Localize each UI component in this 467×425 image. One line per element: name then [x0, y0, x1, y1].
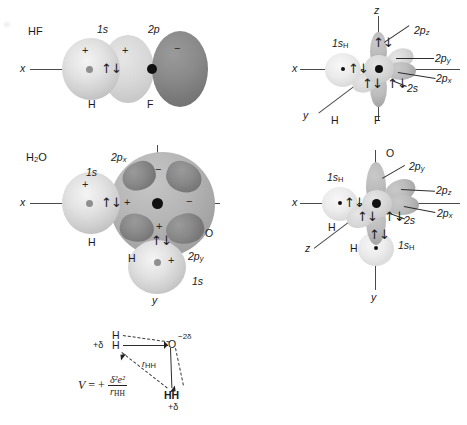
axis-label-y: y	[152, 295, 157, 306]
axis-label-y: y	[371, 292, 376, 303]
orbital-subscript: H	[343, 41, 348, 50]
molecule-label-hf: HF	[28, 26, 43, 37]
orbital-text: 1s	[327, 171, 338, 183]
molecule-text-2: O	[38, 151, 47, 163]
orbital-text: 1s	[332, 37, 343, 49]
axis-label-z: z	[374, 5, 379, 16]
axis-label-z: z	[305, 243, 310, 254]
orbital-subscript: x	[123, 155, 127, 164]
atom-label-h-x: H	[88, 237, 96, 248]
axis-label-x: x	[292, 63, 297, 74]
distance-subscript: HH	[145, 361, 156, 370]
atom-label-h-x: H	[328, 222, 336, 233]
orbital-text: 2p	[188, 250, 200, 262]
equation-equals-plus: = +	[88, 378, 105, 392]
leader-line-2py	[396, 58, 434, 59]
dashed-line-o-to-lower-h	[175, 348, 184, 385]
orbital-label-1s-hx: 1s	[86, 167, 97, 178]
atom-label-h: H	[88, 99, 96, 110]
atom-label-f: F	[374, 115, 380, 126]
orbital-label-2px: 2px	[437, 208, 452, 220]
orbital-label-2py: 2py	[188, 251, 203, 263]
bond-line-o-hh	[170, 348, 172, 388]
denominator-subscript: HH	[114, 389, 125, 398]
axis-label-x: x	[20, 197, 25, 208]
scan-artifact	[4, 22, 10, 27]
phase-sign-hy-plus: +	[168, 255, 174, 266]
atom-label-o: O	[205, 228, 213, 239]
phase-sign-h-plus: +	[82, 45, 88, 56]
fluorine-nucleus	[375, 65, 383, 73]
orbital-subscript: x	[449, 211, 453, 220]
oxygen-nucleus	[372, 199, 381, 208]
bond-line-h-o	[123, 345, 168, 346]
potential-energy-equation: V = + δ²e² rHH	[78, 374, 127, 398]
atom-label-h: H	[331, 115, 339, 126]
orbital-label-1s-hx: 1sH	[327, 172, 344, 184]
atom-label-o: O	[386, 148, 394, 159]
equation-v-symbol: V	[78, 378, 85, 392]
atom-label-h-y: H	[128, 253, 136, 264]
electron-pair-arrows-2py: ↑↓	[362, 77, 382, 90]
axis-label-y: y	[303, 110, 308, 121]
oxygen-label: O	[168, 339, 176, 350]
orbital-text: 2p	[409, 160, 421, 172]
phase-sign-f-back-plus: +	[122, 45, 128, 56]
orbital-subscript: y	[200, 254, 204, 263]
molecule-label-h2o: H2O	[26, 152, 47, 164]
dashed-line-rhh	[121, 352, 167, 388]
electron-pair-arrows: ↑↓	[101, 62, 121, 75]
orbital-label-2pz: 2pz	[414, 25, 429, 37]
orbital-text: 2p	[111, 151, 123, 163]
orbital-label-2s: 2s	[407, 83, 418, 94]
orbital-subscript: x	[448, 76, 452, 85]
orbital-subscript: H	[338, 175, 343, 184]
orbital-overlap-figure: ↑↓ HF 1s 2p H F x + + − ↑↓ ↑↓ ↑↓ ↑↓	[0, 0, 467, 425]
distance-label-rhh: rHH	[142, 360, 156, 370]
orbital-label-1s-hy: 1sH	[398, 240, 415, 252]
orbital-label-1s: 1s	[97, 24, 108, 35]
orbital-text: 2p	[435, 52, 447, 64]
orbital-label-2pz: 2pz	[436, 185, 451, 197]
orbital-subscript: y	[447, 56, 451, 65]
orbital-label-2py: 2py	[409, 161, 424, 173]
hydrogen-y-nucleus	[154, 259, 161, 266]
phase-sign-2px-minus-top: −	[155, 164, 161, 175]
axis-label-x: x	[292, 197, 297, 208]
hydrogen-x-nucleus	[338, 201, 342, 205]
atom-label-h-y: H	[350, 243, 358, 254]
orbital-label-2s: 2s	[404, 215, 415, 226]
phase-sign-f-front-minus: −	[174, 43, 180, 54]
phase-sign-2px-minus-right: −	[186, 196, 192, 207]
atom-label-f: F	[147, 99, 153, 110]
electron-pair-arrows-x-bond: ↑↓	[344, 196, 364, 209]
hydrogen-x-nucleus	[86, 200, 93, 207]
orbital-label-1s-hy: 1s	[192, 276, 203, 287]
charge-label-delta-minus2: −2δ	[178, 333, 192, 341]
charge-label-delta-plus-lower: +δ	[168, 403, 178, 412]
phase-sign-2py-plus: +	[156, 221, 162, 232]
axis-label-x: x	[20, 63, 25, 74]
fluorine-nucleus	[147, 64, 157, 74]
orbital-subscript: z	[426, 28, 430, 37]
charge-label-delta-plus-upper: +δ	[93, 341, 103, 350]
molecule-text: H	[26, 151, 34, 163]
electron-pair-arrows-x-bond: ↑↓	[101, 196, 121, 209]
orbital-subscript: y	[421, 164, 425, 173]
hydrogen-y-nucleus	[374, 246, 378, 250]
leader-line-2py	[382, 165, 405, 179]
orbital-label-2px: 2px	[111, 152, 126, 164]
electron-pair-arrows-y-bond: ↑↓	[151, 234, 171, 247]
electron-pair-arrows-sigma: ↑↓	[348, 62, 368, 75]
electron-pair-arrows-2s: ↑↓	[387, 77, 407, 90]
orbital-label-2p: 2p	[148, 24, 160, 35]
orbital-text: 2p	[436, 184, 448, 196]
orbital-label-2px: 2px	[436, 73, 451, 85]
lower-hh-label: HH	[164, 390, 179, 401]
orbital-text: 2p	[436, 72, 448, 84]
orbital-label-1s-h: 1sH	[332, 38, 349, 50]
upper-h-label-bottom: H	[112, 340, 120, 351]
equation-denominator: rHH	[108, 386, 127, 398]
phase-sign-2px-plus: +	[124, 197, 130, 208]
electron-pair-arrows-z: ↑↓	[357, 210, 377, 223]
